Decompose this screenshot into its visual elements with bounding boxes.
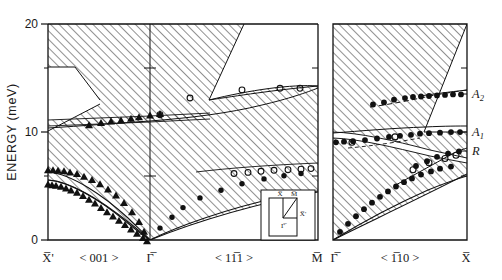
y-tick-label-10: 10 [25, 125, 39, 139]
branch-label-A2: A2 [471, 87, 485, 103]
y-tick-label-20: 20 [25, 17, 39, 31]
y-tick-label-0: 0 [31, 233, 38, 247]
x-tick-label-right-gamma: Γ̅ [330, 251, 341, 265]
x-direction-label-b110: < 1̅10 > [381, 251, 420, 265]
inset-label-x: X̅ [277, 190, 282, 198]
inset-label-m: M̅ [291, 190, 298, 198]
x-axis-labels: X̅' < 001 > Γ̅ < 11̅1 > M̅ Γ̅ < 1̅10 > X… [42, 251, 470, 265]
x-direction-label-001: < 001 > [79, 251, 118, 265]
x-tick-label-right-x: X̅ [461, 251, 470, 265]
x-tick-label-left-m: M̅ [311, 251, 322, 265]
y-axis-title: ENERGY (meV) [5, 83, 19, 180]
right-panel [333, 24, 467, 240]
x-tick-label-left-gamma: Γ̅ [146, 251, 157, 265]
phonon-dispersion-figure: 20 10 0 ENERGY (meV) X̅' < 001 > Γ̅ < 11… [0, 0, 502, 280]
branch-label-A1: A1 [471, 125, 484, 141]
x-direction-label-1b11: < 11̅1 > [215, 251, 253, 265]
inset-brillouin-zone: X̅ M̅ X̅' Γ̅ [261, 190, 315, 240]
right-panel-continuum [333, 24, 467, 240]
figure-canvas: 20 10 0 ENERGY (meV) X̅' < 001 > Γ̅ < 11… [0, 0, 502, 280]
branch-labels: A2 A1 R [471, 87, 485, 158]
x-tick-label-left-xprime: X̅' [42, 251, 53, 265]
inset-label-xprime: X̅' [300, 210, 306, 218]
branch-label-R: R [471, 144, 480, 158]
y-axis: 20 10 0 ENERGY (meV) [5, 17, 48, 247]
